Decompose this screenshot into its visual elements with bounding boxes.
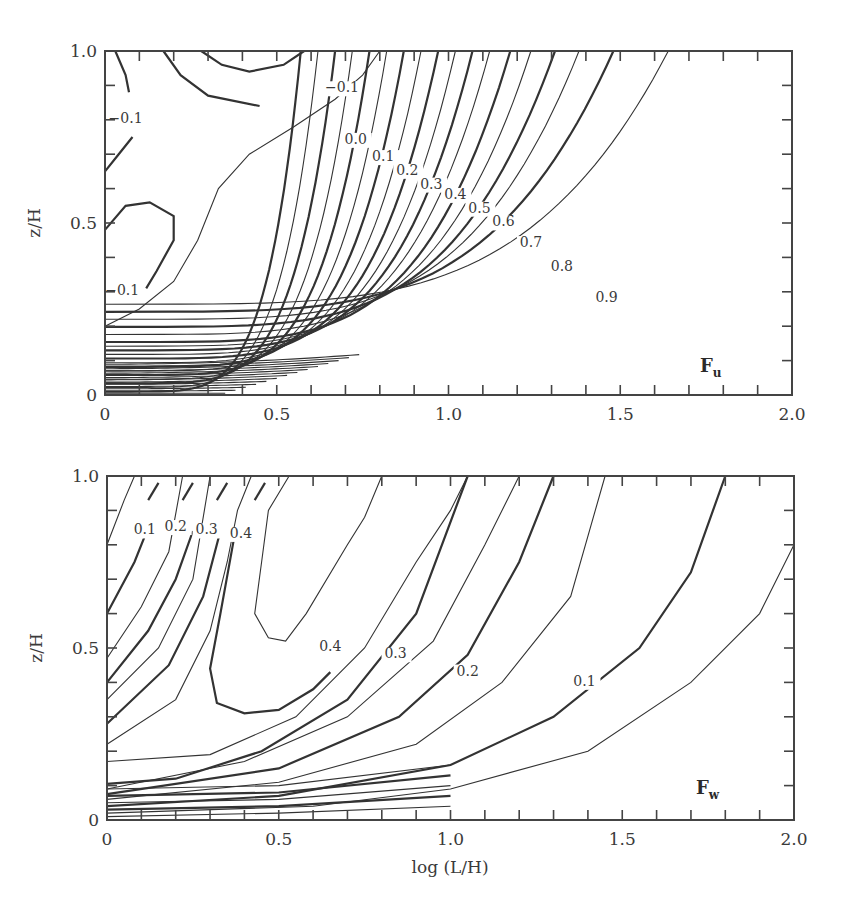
contour-label: 0.4	[230, 525, 252, 541]
contour-line	[107, 476, 468, 762]
fu-y-axis-title: z/H	[24, 208, 44, 238]
contour-line	[105, 51, 473, 350]
contour-line	[115, 51, 129, 92]
contour-label: 0.2	[396, 162, 418, 178]
contour-label: −0.1	[105, 282, 139, 298]
fu-contour-lines	[105, 51, 668, 393]
contour-line	[255, 476, 382, 641]
contour-line	[107, 545, 794, 813]
contour-label: −0.1	[109, 110, 143, 126]
x-tick-label: 1.5	[607, 404, 634, 424]
contour-label: 0.4	[319, 638, 341, 654]
contour-line	[107, 531, 220, 724]
fu-plot-frame	[105, 51, 792, 395]
fu-panel-label: Fu	[700, 355, 722, 380]
contour-label: 0.0	[345, 131, 367, 147]
y-tick-label: 0	[86, 385, 97, 405]
x-tick-label: 1.0	[435, 404, 462, 424]
x-tick-label: 0	[100, 404, 111, 424]
contour-label: 0.8	[551, 258, 573, 274]
x-tick-label: 0.5	[263, 404, 290, 424]
x-tick-label: 2.0	[780, 829, 807, 849]
contour-line	[105, 51, 387, 371]
x-tick-label: 2.0	[778, 404, 805, 424]
contour-line	[255, 483, 265, 500]
contour-line	[107, 476, 468, 784]
y-tick-label: 0.5	[72, 638, 99, 658]
contour-label: 0.1	[134, 521, 156, 537]
x-tick-label: 0.5	[265, 829, 292, 849]
contour-line	[105, 390, 236, 391]
contour-label: 0.1	[372, 148, 394, 164]
y-tick-label: 1.0	[70, 41, 97, 61]
contour-label: 0.9	[595, 289, 617, 305]
contour-line	[107, 528, 148, 614]
contour-label: 0.3	[420, 176, 442, 192]
contour-line	[107, 531, 193, 682]
contour-label: 0.3	[195, 521, 217, 537]
panel-fu: −0.1−0.10.00.10.20.30.40.50.60.70.80.9−0…	[24, 41, 806, 424]
y-tick-label: 1.0	[72, 466, 99, 486]
contour-line	[217, 483, 227, 500]
contour-line	[105, 202, 174, 288]
y-tick-label: 0.5	[70, 213, 97, 233]
contour-label: 0.6	[492, 213, 514, 229]
contour-line	[105, 51, 318, 387]
contour-line	[105, 51, 613, 312]
fw-x-axis-title: log (L/H)	[411, 857, 488, 877]
contour-line	[183, 483, 193, 500]
contour-line	[148, 483, 158, 500]
contour-label: 0.2	[457, 663, 479, 679]
x-tick-label: 1.5	[609, 829, 636, 849]
contour-line	[163, 51, 259, 106]
x-tick-label: 1.0	[437, 829, 464, 849]
fw-contour-labels: 0.10.20.30.40.40.30.20.1	[131, 518, 601, 690]
contour-label: 0.7	[520, 234, 542, 250]
contour-line	[105, 51, 421, 363]
contour-line	[201, 51, 304, 72]
y-tick-label: 0	[88, 810, 99, 830]
contour-label: −0.1	[325, 79, 359, 95]
panel-fw: 0.10.20.30.40.40.30.20.1 00.51.01.52.000…	[26, 466, 808, 877]
contour-label: 0.4	[444, 186, 466, 202]
contour-line	[210, 538, 330, 714]
contour-line	[107, 476, 183, 658]
contour-line	[107, 476, 210, 700]
contour-label: 0.1	[573, 673, 595, 689]
contour-label: 0.2	[165, 518, 187, 534]
fw-panel-label: Fw	[696, 777, 720, 802]
figure: −0.1−0.10.00.10.20.30.40.50.60.70.80.9−0…	[0, 0, 842, 919]
contour-line	[105, 51, 668, 304]
contour-label: 0.5	[468, 200, 490, 216]
contour-label: 0.3	[384, 645, 406, 661]
x-tick-label: 0	[102, 829, 113, 849]
fw-y-axis-title: z/H	[26, 633, 46, 663]
fu-ticks	[105, 51, 792, 395]
